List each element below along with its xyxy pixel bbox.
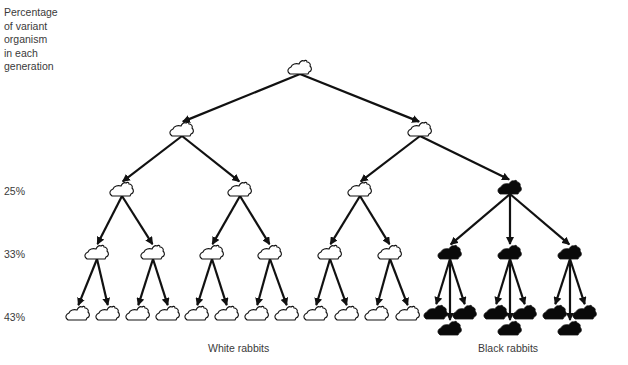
white-rabbit-icon xyxy=(228,182,251,196)
arrow xyxy=(197,259,212,305)
white-rabbit-icon xyxy=(304,306,327,320)
arrow xyxy=(450,259,465,304)
arrow xyxy=(436,259,450,304)
white-rabbit-icon xyxy=(275,306,298,320)
arrow xyxy=(361,136,420,181)
white-rabbit-icon xyxy=(396,306,419,320)
arrow xyxy=(510,194,569,244)
white-rabbit-icon xyxy=(318,245,341,259)
arrow xyxy=(555,259,570,304)
arrow xyxy=(97,259,108,305)
arrow xyxy=(316,259,330,305)
white-rabbit-icon xyxy=(245,306,268,320)
white-rabbit-icon xyxy=(408,122,431,136)
white-rabbit-icon xyxy=(348,182,371,196)
black-rabbit-icon xyxy=(438,245,461,259)
black-rabbit-icon xyxy=(498,245,521,259)
white-rabbit-icon xyxy=(96,306,119,320)
arrow xyxy=(270,259,287,305)
arrow xyxy=(257,259,270,305)
arrow xyxy=(78,259,97,305)
arrow xyxy=(183,74,300,122)
arrow xyxy=(153,259,168,305)
white-rabbit-icon xyxy=(185,306,208,320)
white-rabbit-icon xyxy=(85,245,108,259)
arrow xyxy=(138,259,153,305)
arrow xyxy=(377,259,390,305)
white-rabbit-icon xyxy=(200,245,223,259)
arrow xyxy=(510,259,525,304)
black-rabbit-icon xyxy=(498,321,521,335)
white-rabbit-icon xyxy=(141,245,164,259)
arrow xyxy=(420,136,509,180)
arrow xyxy=(97,196,122,244)
white-rabbit-icon xyxy=(66,306,89,320)
white-rabbit-icon xyxy=(170,122,193,136)
arrow xyxy=(570,259,585,304)
arrow xyxy=(212,259,227,305)
arrow xyxy=(331,196,360,244)
arrow xyxy=(496,259,510,304)
arrow xyxy=(330,259,347,305)
arrow xyxy=(360,196,389,244)
arrow xyxy=(123,136,182,181)
white-rabbit-icon xyxy=(288,60,311,74)
white-rabbit-icon xyxy=(335,306,358,320)
arrow xyxy=(122,196,152,244)
white-rabbit-icon xyxy=(378,245,401,259)
white-rabbit-icon xyxy=(126,306,149,320)
black-rabbit-icon xyxy=(573,305,596,319)
arrow xyxy=(300,74,419,122)
black-rabbit-icon xyxy=(513,305,536,319)
arrow xyxy=(451,194,510,244)
rabbits-layer xyxy=(66,60,596,335)
arrows-layer xyxy=(78,74,584,320)
rabbit-lineage-tree xyxy=(0,0,628,365)
black-rabbit-icon xyxy=(558,245,581,259)
white-rabbit-icon xyxy=(365,306,388,320)
arrow xyxy=(212,196,240,244)
black-rabbit-icon xyxy=(424,305,447,319)
white-rabbit-icon xyxy=(110,182,133,196)
white-rabbit-icon xyxy=(258,245,281,259)
black-rabbit-icon xyxy=(438,321,461,335)
black-rabbit-icon xyxy=(558,321,581,335)
black-rabbit-icon xyxy=(453,305,476,319)
white-rabbit-icon xyxy=(156,306,179,320)
white-rabbit-icon xyxy=(215,306,238,320)
arrow xyxy=(240,196,269,244)
arrow xyxy=(182,136,239,181)
black-rabbit-icon xyxy=(543,305,566,319)
black-rabbit-icon xyxy=(498,180,521,194)
black-rabbit-icon xyxy=(484,305,507,319)
arrow xyxy=(390,259,408,305)
